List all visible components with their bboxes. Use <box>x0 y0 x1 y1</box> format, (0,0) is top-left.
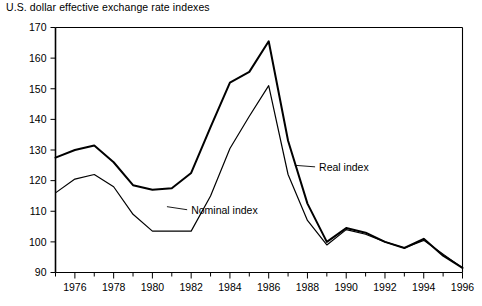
x-axis-tick-label: 1986 <box>257 281 281 293</box>
annotation-label-real-index: Real index <box>319 161 369 173</box>
x-axis-tick-label: 1984 <box>218 281 242 293</box>
y-axis-tick-label: 110 <box>30 205 47 217</box>
x-axis-tick-label: 1996 <box>451 281 475 293</box>
x-axis-tick-label: 1994 <box>412 281 436 293</box>
series-line-real-index <box>56 41 463 268</box>
x-axis-tick-label: 1990 <box>335 281 359 293</box>
annotation-group: Nominal indexReal index <box>167 161 370 216</box>
y-axis-tick-label: 160 <box>29 52 47 64</box>
y-axis-tick-group: 90100110120130140150160170 <box>29 21 56 278</box>
y-axis-tick-label: 170 <box>29 21 47 33</box>
annotation-label-nominal-index: Nominal index <box>191 204 258 216</box>
x-axis-tick-label: 1992 <box>373 281 397 293</box>
y-axis-tick-label: 120 <box>29 174 47 186</box>
y-axis-tick-label: 140 <box>29 113 47 125</box>
y-axis-tick-label: 100 <box>29 236 47 248</box>
y-axis-tick-label: 90 <box>35 266 47 278</box>
x-axis-tick-label: 1988 <box>296 281 320 293</box>
annotation-leader-line <box>167 207 187 210</box>
x-axis-tick-label: 1980 <box>141 281 165 293</box>
data-series-group <box>56 41 463 268</box>
series-line-nominal-index <box>56 86 463 268</box>
chart-figure: U.S. dollar effective exchange rate inde… <box>0 0 482 306</box>
annotation-leader-line <box>295 165 315 167</box>
y-axis-tick-label: 150 <box>29 83 47 95</box>
plot-frame <box>56 28 463 273</box>
x-axis-tick-group: 1976197819801982198419861988199019921994… <box>56 273 475 293</box>
x-axis-tick-label: 1978 <box>102 281 126 293</box>
line-chart-canvas: 90100110120130140150160170 1976197819801… <box>0 0 482 306</box>
x-axis-tick-label: 1976 <box>63 281 87 293</box>
y-axis-tick-label: 130 <box>29 144 47 156</box>
x-axis-tick-label: 1982 <box>179 281 203 293</box>
